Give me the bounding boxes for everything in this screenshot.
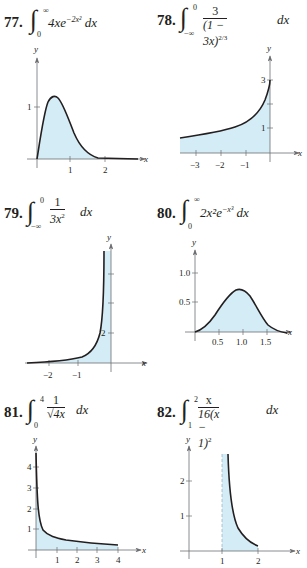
curve (36, 453, 118, 545)
x-axis-label: x (287, 327, 292, 337)
y-tick-label: 2 (101, 328, 106, 338)
y-tick-label: 3 (27, 483, 32, 493)
x-tick-label: 1.5 (260, 337, 272, 347)
x-tick-label: 1 (55, 555, 60, 565)
y-tick-label: 1 (180, 511, 185, 521)
shaded-region (180, 80, 270, 153)
y-axis-label: y (185, 434, 190, 444)
x-tick-label: 2 (75, 555, 80, 565)
x-tick-label: 0.5 (212, 337, 224, 347)
x-tick-label: −3 (190, 160, 200, 170)
x-tick-label: 2 (103, 165, 108, 175)
x-tick-label: 1 (220, 556, 225, 566)
x-tick-label: 2 (256, 556, 261, 566)
x-tick-label: −2 (43, 370, 53, 380)
y-tick-label: 1 (27, 524, 32, 534)
shaded-region (37, 96, 110, 159)
y-axis-label: y (106, 232, 111, 242)
y-axis-label: y (33, 44, 38, 54)
graph-81: 1 2 3 4 1 2 3 4 x y (27, 434, 146, 565)
x-tick-label: −2 (215, 160, 225, 170)
x-axis-label: x (143, 154, 148, 164)
graphs-canvas: 1 2 1 x y −3 −2 −1 1 3 x y −2 −1 (0, 0, 307, 568)
x-axis-label: x (141, 358, 146, 368)
shaded-region (27, 251, 111, 363)
y-tick-label: 1 (261, 123, 266, 133)
x-axis-label: x (297, 148, 302, 158)
y-tick-label: 2 (27, 504, 32, 514)
y-tick-label: 2 (180, 476, 185, 486)
y-tick-label: 3 (261, 75, 266, 85)
shaded-region (222, 454, 258, 551)
graph-82: 1 2 1 2 x y (180, 434, 300, 566)
graph-77: 1 2 1 x y (27, 44, 148, 175)
x-axis-label: x (141, 545, 146, 555)
x-axis-label: x (295, 546, 300, 556)
y-axis-label: y (191, 237, 196, 247)
y-axis-label: y (266, 43, 271, 53)
x-tick-label: 1 (68, 165, 73, 175)
x-tick-label: −1 (72, 370, 82, 380)
curve (27, 251, 104, 363)
y-tick-label: 4 (27, 462, 32, 472)
x-tick-label: 1.0 (236, 337, 248, 347)
x-tick-label: −1 (240, 160, 250, 170)
shaded-region (195, 289, 285, 332)
y-axis-label: y (32, 434, 37, 444)
x-tick-label: 4 (116, 555, 121, 565)
graph-80: 0.5 1.0 1.5 0.5 1.0 x y (179, 237, 292, 347)
graph-78: −3 −2 −1 1 3 x y (180, 43, 302, 170)
y-tick-label: 1 (27, 102, 32, 112)
y-tick-label: 1.0 (179, 268, 191, 278)
y-tick-label: 0.5 (179, 297, 191, 307)
x-tick-label: 3 (95, 555, 100, 565)
graph-79: −2 −1 2 x y (25, 232, 147, 380)
shaded-region (36, 453, 118, 550)
